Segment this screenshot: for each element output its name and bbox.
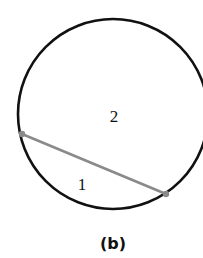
region-label-1: 1 (78, 175, 87, 194)
chord-endpoint-right (163, 191, 169, 197)
region-label-2: 2 (110, 107, 119, 126)
figure-caption: (b) (100, 234, 126, 253)
chord-endpoint-left (19, 131, 25, 137)
circle-chord-diagram: 2 1 (b) (0, 0, 203, 258)
chord-line (22, 134, 166, 194)
